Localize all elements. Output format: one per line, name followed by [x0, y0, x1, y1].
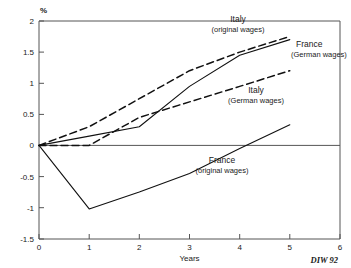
x-tick-label-2: 2: [137, 243, 142, 252]
svg-text:(German wages): (German wages): [291, 50, 347, 59]
x-tick-label-5: 5: [288, 243, 293, 252]
svg-text:(original wages): (original wages): [196, 166, 249, 175]
y-tick-label-m0p5: -0.5: [20, 173, 34, 182]
y-axis-ticks: [39, 21, 44, 239]
x-tick-label-3: 3: [187, 243, 192, 252]
annotation-france-original-wages: France (original wages): [196, 155, 249, 175]
svg-text:(German wages): (German wages): [228, 96, 284, 105]
svg-text:(original wages): (original wages): [212, 25, 265, 34]
svg-text:France: France: [209, 155, 236, 165]
y-tick-label-1p5: 1.5: [23, 48, 35, 57]
x-axis-title: Years: [179, 254, 199, 263]
x-tick-label-6: 6: [338, 243, 343, 252]
y-tick-label-m1: -1: [27, 204, 35, 213]
x-tick-label-4: 4: [237, 243, 242, 252]
x-axis-ticks: [39, 234, 340, 239]
y-tick-label-2: 2: [30, 17, 35, 26]
series-line-italy-german-wages: [39, 71, 290, 146]
y-tick-label-1: 1: [30, 79, 35, 88]
annotation-france-german-wages: France (German wages): [291, 39, 347, 59]
y-tick-label-m1p5: -1.5: [20, 235, 34, 244]
series-line-france-original-wages: [39, 125, 290, 209]
annotation-italy-original-wages: Italy (original wages): [212, 14, 265, 34]
svg-text:Italy: Italy: [230, 14, 246, 24]
y-tick-label-0p5: 0.5: [23, 110, 35, 119]
source-mark: DIW 92: [310, 255, 339, 265]
svg-text:France: France: [296, 39, 323, 49]
x-tick-label-0: 0: [37, 243, 42, 252]
svg-text:Italy: Italy: [248, 85, 264, 95]
x-tick-label-1: 1: [87, 243, 92, 252]
y-axis-unit-label: %: [40, 6, 47, 15]
y-tick-label-0: 0: [30, 141, 35, 150]
chart-figure: % 2 1.5 1 0.5 0 -0.5 -1 -1.5: [0, 0, 351, 268]
